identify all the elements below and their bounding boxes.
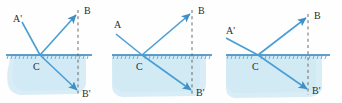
incident-ray [22, 22, 40, 55]
label-image-above: B [198, 5, 205, 16]
label-interface-point: C [252, 61, 259, 72]
panel-middle: A B B' C [112, 0, 228, 103]
label-image-below: B' [196, 87, 205, 98]
label-image-above: B [314, 10, 321, 21]
label-interface-point: C [136, 61, 143, 72]
reflected-ray-to-b [142, 14, 190, 55]
panel-right: A' B B' C [226, 0, 342, 103]
panel-left: A' B B' C [0, 0, 114, 103]
label-source: A' [13, 13, 22, 24]
label-source: A [114, 19, 122, 30]
label-source: A' [226, 25, 235, 36]
label-image-above: B [84, 5, 91, 16]
reflected-ray-to-b [258, 18, 306, 55]
incident-ray [226, 38, 258, 55]
reflected-ray-to-b [40, 15, 76, 55]
label-image-below: B' [82, 88, 91, 99]
label-image-below: B' [312, 85, 321, 96]
incident-ray [116, 34, 142, 55]
ray-diagram-figure: A' B B' C [0, 0, 342, 103]
label-interface-point: C [33, 61, 40, 72]
